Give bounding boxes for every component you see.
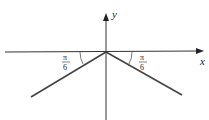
x-axis bbox=[5, 51, 200, 52]
x-axis-arrow-icon bbox=[196, 48, 204, 54]
right-angle-arc bbox=[129, 52, 132, 64]
diagram-canvas: y x π 6 π 6 bbox=[0, 0, 209, 120]
y-axis-arrow-icon bbox=[103, 13, 109, 21]
left-angle-denominator: 6 bbox=[63, 63, 67, 72]
right-angle-denominator: 6 bbox=[140, 63, 144, 72]
left-angle-arc bbox=[80, 52, 83, 64]
diagram: y x π 6 π 6 bbox=[0, 0, 209, 120]
y-axis-label: y bbox=[111, 8, 117, 20]
left-angle-numerator: π bbox=[63, 53, 67, 62]
x-axis-label: x bbox=[199, 55, 205, 67]
right-angle-numerator: π bbox=[140, 53, 144, 62]
left-ray bbox=[31, 52, 106, 97]
